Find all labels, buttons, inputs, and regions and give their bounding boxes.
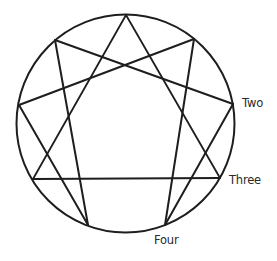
label-four: Four bbox=[154, 235, 178, 247]
enneagram-diagram bbox=[0, 0, 277, 261]
outer-circle bbox=[17, 15, 235, 233]
hexad-figure bbox=[19, 39, 233, 225]
label-three: Three bbox=[229, 175, 261, 187]
hexad-line-one-four bbox=[165, 39, 194, 225]
label-two: Two bbox=[242, 98, 263, 110]
